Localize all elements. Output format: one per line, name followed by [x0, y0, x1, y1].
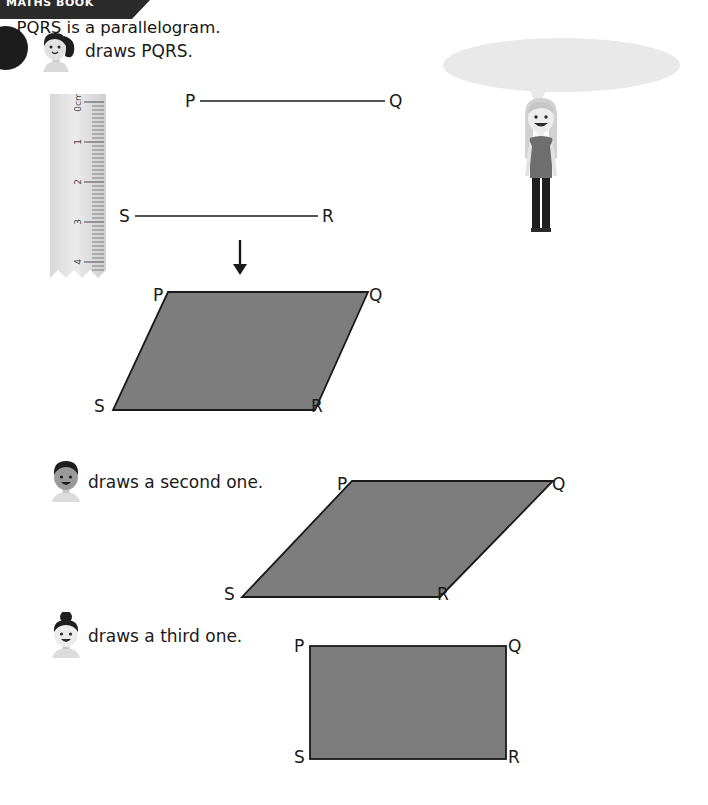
rectangle-third-label-s: S — [294, 747, 305, 767]
ruler-tick-1: 1 — [73, 139, 83, 145]
segment-pq-label-p: P — [185, 91, 195, 111]
parallelogram-first-label-p: P — [153, 285, 163, 305]
down-arrow-icon — [233, 240, 247, 275]
segment-sr-label-s: S — [119, 206, 130, 226]
ruler-graphic: 0cm 1 2 3 4 — [48, 94, 110, 284]
parallelogram-first-label-r: R — [311, 396, 323, 416]
parallelogram-second-label-p: P — [337, 474, 347, 494]
ruler-tick-4: 4 — [73, 259, 83, 265]
parallelogram-second-label-q: Q — [552, 474, 565, 494]
parallelogram-second-label-s: S — [224, 584, 235, 604]
instruction-text-step-2: draws a second one. — [88, 472, 263, 492]
rectangle-third — [310, 646, 506, 759]
parallelogram-first-label-s: S — [94, 396, 105, 416]
speech-bubble — [443, 38, 680, 92]
ruler-tick-3: 3 — [73, 219, 83, 225]
rectangle-third-label-p: P — [294, 636, 304, 656]
parallelogram-first-label-q: Q — [369, 285, 382, 305]
ruler-tick-2: 2 — [73, 179, 83, 185]
segment-sr-label-r: R — [322, 206, 334, 226]
rectangle-third-label-q: Q — [508, 636, 521, 656]
parallelogram-first — [113, 292, 368, 410]
ruler-tick-0cm: 0cm — [73, 94, 83, 112]
parallelogram-second — [242, 481, 553, 597]
boy-short-hair-avatar — [45, 458, 87, 502]
girl-long-hair-character — [505, 96, 577, 236]
speech-bubble-text: PQRS is a parallelogram. — [0, 0, 237, 54]
girl-bun-avatar — [45, 612, 87, 658]
instruction-text-step-3: draws a third one. — [88, 626, 242, 646]
segment-pq-label-q: Q — [389, 91, 402, 111]
parallelogram-second-label-r: R — [437, 584, 449, 604]
rectangle-third-label-r: R — [508, 747, 520, 767]
